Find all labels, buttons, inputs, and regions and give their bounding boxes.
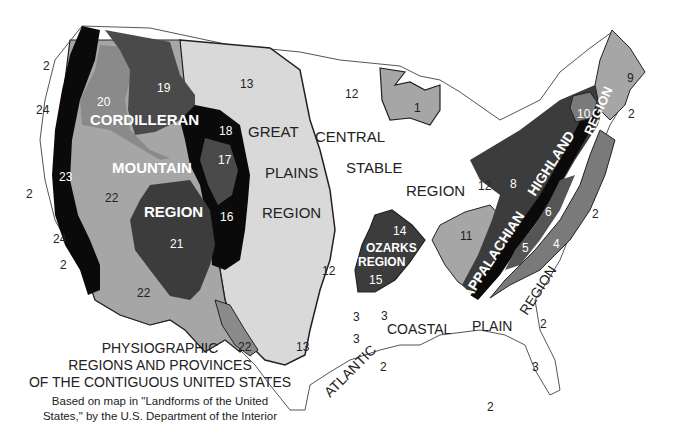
source-line-1: Based on map in "Landforms of the United xyxy=(20,394,300,409)
province-9: 9 xyxy=(627,71,634,85)
province-2-mid-atlantic: 2 xyxy=(592,207,599,221)
title-line-3: OF THE CONTIGUOUS UNITED STATES xyxy=(20,374,300,391)
province-3-mississippi: 3 xyxy=(381,309,388,323)
province-12-dakota: 12 xyxy=(345,87,359,101)
province-14: 14 xyxy=(393,224,407,238)
province-17: 17 xyxy=(218,153,232,167)
province-3-florida: 3 xyxy=(532,360,539,374)
cordilleran-label: CORDILLERAN xyxy=(90,111,199,128)
province-4: 4 xyxy=(553,237,560,251)
province-2-california: 2 xyxy=(26,187,33,201)
province-22-nevada: 22 xyxy=(105,191,119,205)
province-2-gulf: 2 xyxy=(380,360,387,374)
central-label: CENTRAL xyxy=(315,128,385,145)
plain-label: PLAIN xyxy=(472,318,512,334)
province-15: 15 xyxy=(369,273,383,287)
province-10: 10 xyxy=(577,107,591,121)
stable-label: STABLE xyxy=(346,159,402,176)
great-label: GREAT xyxy=(248,123,299,140)
province-13-montana: 13 xyxy=(240,77,254,91)
central-stable-region-label: REGION xyxy=(406,182,465,199)
province-12-oklahoma: 12 xyxy=(322,264,336,278)
cordilleran-region-label: REGION xyxy=(144,203,203,220)
province-5: 5 xyxy=(522,241,529,255)
title-line-2: REGIONS AND PROVINCES xyxy=(20,357,300,374)
province-23: 23 xyxy=(59,170,73,184)
province-24-california: 24 xyxy=(53,232,67,246)
province-2-carolina: 2 xyxy=(540,317,547,331)
province-19: 19 xyxy=(157,81,171,95)
great-plains-region-label: REGION xyxy=(262,204,321,221)
province-3-louisiana: 3 xyxy=(353,310,360,324)
map-title: PHYSIOGRAPHIC REGIONS AND PROVINCES OF T… xyxy=(20,340,300,391)
plains-label: PLAINS xyxy=(265,164,318,181)
province-2-florida: 2 xyxy=(487,400,494,414)
province-1: 1 xyxy=(414,101,421,115)
province-6: 6 xyxy=(545,205,552,219)
source-line-2: States," by the U.S. Department of the I… xyxy=(20,409,300,424)
province-18: 18 xyxy=(219,124,233,138)
province-2-new-england: 2 xyxy=(628,107,635,121)
coastal-label: COASTAL xyxy=(387,321,452,337)
province-12-ohio: 12 xyxy=(478,179,492,193)
title-line-1: PHYSIOGRAPHIC xyxy=(20,340,300,357)
province-16: 16 xyxy=(220,210,234,224)
province-11: 11 xyxy=(460,229,473,243)
province-2-socal: 2 xyxy=(60,258,67,272)
province-22-arizona: 22 xyxy=(137,286,151,300)
map-source: Based on map in "Landforms of the United… xyxy=(20,394,300,424)
province-21: 21 xyxy=(170,237,184,251)
province-2-oregon: 2 xyxy=(43,59,50,73)
province-24-oregon: 24 xyxy=(36,103,50,117)
province-20: 20 xyxy=(97,95,111,109)
ozarks-label: OZARKS xyxy=(366,241,417,255)
ozarks-region-label: REGION xyxy=(358,255,405,269)
mountain-label: MOUNTAIN xyxy=(112,159,192,176)
province-3-texas: 3 xyxy=(353,332,360,346)
province-8: 8 xyxy=(510,177,517,191)
